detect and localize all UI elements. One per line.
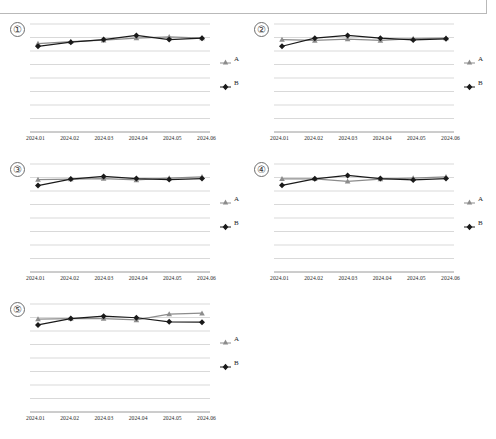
legend-item-b[interactable]: B bbox=[220, 358, 260, 368]
triangle-marker-icon bbox=[220, 194, 231, 204]
x-axis-labels-2: 2024.012024.022024.032024.042024.052024.… bbox=[270, 135, 460, 149]
x-tick-label: 2024.06 bbox=[441, 275, 460, 281]
panel-index-4: ④ bbox=[254, 162, 269, 177]
x-tick-label: 2024.03 bbox=[338, 135, 357, 141]
data-point-b bbox=[35, 322, 41, 328]
triangle-marker-icon bbox=[464, 54, 475, 64]
data-point-b bbox=[166, 319, 172, 325]
legend-item-b[interactable]: B bbox=[464, 78, 496, 88]
plot-area-3 bbox=[30, 162, 210, 274]
x-tick-label: 2024.01 bbox=[26, 415, 45, 421]
x-tick-label: 2024.04 bbox=[373, 135, 392, 141]
legend-item-a[interactable]: A bbox=[464, 54, 496, 64]
x-axis-labels-5: 2024.012024.022024.032024.042024.052024.… bbox=[26, 415, 216, 429]
x-tick-label: 2024.05 bbox=[163, 275, 182, 281]
diamond-marker-icon bbox=[220, 78, 231, 88]
legend-label: B bbox=[478, 219, 483, 227]
plot-area-1 bbox=[30, 22, 210, 134]
triangle-marker-icon bbox=[220, 334, 231, 344]
x-tick-label: 2024.03 bbox=[94, 135, 113, 141]
x-tick-label: 2024.04 bbox=[129, 135, 148, 141]
x-tick-label: 2024.05 bbox=[407, 135, 426, 141]
panel-index-1: ① bbox=[10, 22, 25, 37]
x-tick-label: 2024.06 bbox=[197, 135, 216, 141]
diamond-marker-icon bbox=[220, 358, 231, 368]
legend-label: B bbox=[234, 219, 239, 227]
legend-item-a[interactable]: A bbox=[464, 194, 496, 204]
diamond-marker-icon bbox=[464, 218, 475, 228]
data-point-b bbox=[35, 43, 41, 49]
legend-item-b[interactable]: B bbox=[464, 218, 496, 228]
x-tick-label: 2024.06 bbox=[441, 135, 460, 141]
x-tick-label: 2024.01 bbox=[270, 135, 289, 141]
plot-area-5 bbox=[30, 302, 210, 414]
x-tick-label: 2024.03 bbox=[94, 275, 113, 281]
legend-label: A bbox=[478, 195, 483, 203]
data-point-b bbox=[68, 39, 74, 45]
chart-panel-2: ② 2024.012024.022024.032024.042024.05202… bbox=[250, 18, 490, 158]
x-axis-labels-3: 2024.012024.022024.032024.042024.052024.… bbox=[26, 275, 216, 289]
diamond-marker-icon bbox=[464, 78, 475, 88]
chart-panel-1: ① 2024.012024.022024.032024.042024.05202… bbox=[6, 18, 246, 158]
chart-panel-4: ④ 2024.012024.022024.032024.042024.05202… bbox=[250, 158, 490, 298]
x-tick-label: 2024.02 bbox=[60, 275, 79, 281]
diamond-marker-icon bbox=[220, 218, 231, 228]
x-tick-label: 2024.03 bbox=[94, 415, 113, 421]
x-axis-labels-4: 2024.012024.022024.032024.042024.052024.… bbox=[270, 275, 460, 289]
panel-index-3: ③ bbox=[10, 162, 25, 177]
plot-area-2 bbox=[274, 22, 454, 134]
x-tick-label: 2024.05 bbox=[407, 275, 426, 281]
x-tick-label: 2024.03 bbox=[338, 275, 357, 281]
x-tick-label: 2024.02 bbox=[60, 135, 79, 141]
x-tick-label: 2024.01 bbox=[26, 135, 45, 141]
legend-label: A bbox=[234, 55, 239, 63]
data-point-b bbox=[35, 183, 41, 189]
x-tick-label: 2024.05 bbox=[163, 135, 182, 141]
legend-label: A bbox=[234, 195, 239, 203]
x-tick-label: 2024.04 bbox=[129, 275, 148, 281]
legend-5: AB bbox=[220, 334, 260, 382]
legend-label: B bbox=[234, 79, 239, 87]
x-tick-label: 2024.04 bbox=[129, 415, 148, 421]
panel-index-5: ⑤ bbox=[10, 302, 25, 317]
chart-svg bbox=[274, 162, 454, 274]
chart-svg bbox=[274, 22, 454, 134]
legend-label: A bbox=[234, 335, 239, 343]
chart-svg bbox=[30, 22, 210, 134]
x-tick-label: 2024.02 bbox=[60, 415, 79, 421]
x-tick-label: 2024.01 bbox=[26, 275, 45, 281]
legend-2: AB bbox=[464, 54, 496, 102]
x-tick-label: 2024.06 bbox=[197, 415, 216, 421]
header-box bbox=[0, 0, 487, 14]
plot-area-4 bbox=[274, 162, 454, 274]
x-tick-label: 2024.02 bbox=[304, 135, 323, 141]
series-line-b bbox=[282, 35, 446, 46]
triangle-marker-icon bbox=[464, 194, 475, 204]
x-tick-label: 2024.04 bbox=[373, 275, 392, 281]
x-tick-label: 2024.02 bbox=[304, 275, 323, 281]
chart-svg bbox=[30, 162, 210, 274]
x-tick-label: 2024.05 bbox=[163, 415, 182, 421]
chart-panel-5: ⑤ 2024.012024.022024.032024.042024.05202… bbox=[6, 298, 246, 438]
triangle-marker-icon bbox=[220, 54, 231, 64]
data-point-b bbox=[199, 319, 205, 325]
legend-item-a[interactable]: A bbox=[220, 334, 260, 344]
chart-svg bbox=[30, 302, 210, 414]
panel-index-2: ② bbox=[254, 22, 269, 37]
data-point-b bbox=[443, 36, 449, 42]
legend-4: AB bbox=[464, 194, 496, 242]
legend-label: B bbox=[478, 79, 483, 87]
chart-panel-3: ③ 2024.012024.022024.032024.042024.05202… bbox=[6, 158, 246, 298]
data-point-b bbox=[133, 176, 139, 182]
x-tick-label: 2024.01 bbox=[270, 275, 289, 281]
data-point-b bbox=[279, 43, 285, 49]
x-axis-labels-1: 2024.012024.022024.032024.042024.052024.… bbox=[26, 135, 216, 149]
data-point-b bbox=[279, 182, 285, 188]
legend-label: B bbox=[234, 359, 239, 367]
legend-label: A bbox=[478, 55, 483, 63]
x-tick-label: 2024.06 bbox=[197, 275, 216, 281]
